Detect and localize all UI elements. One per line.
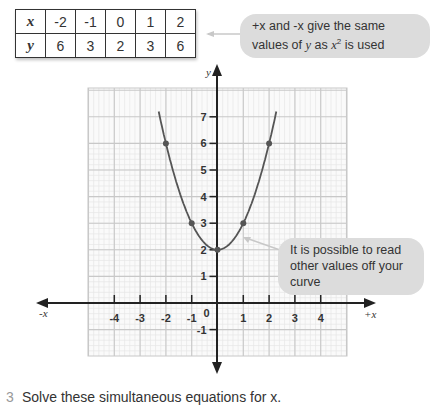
y-tick-label: 4 <box>200 191 207 203</box>
x-neg-label: -x <box>39 307 48 319</box>
question: 3Solve these simultaneous equations for … <box>6 389 281 405</box>
x-tick-label: 0 <box>203 307 209 319</box>
data-point <box>266 140 272 146</box>
y-tick-label: -1 <box>197 324 207 336</box>
callout-arrowhead-1 <box>206 31 214 37</box>
data-point <box>189 220 195 226</box>
data-point <box>240 220 246 226</box>
y-tick-label: 3 <box>200 217 206 229</box>
y-tick-label: 1 <box>200 270 206 282</box>
x-pos-label: +x <box>364 308 376 320</box>
y-axis-arrow-icon <box>212 64 222 76</box>
x-tick-label: 1 <box>240 312 246 324</box>
x-tick-label: 3 <box>292 312 298 324</box>
x-tick-label: -3 <box>135 312 145 324</box>
symmetry-callout: +x and -x give the same values of y as x… <box>240 14 430 58</box>
x-tick-label: -2 <box>161 312 171 324</box>
x-tick-label: 2 <box>266 312 272 324</box>
data-point <box>163 140 169 146</box>
read-values-callout: It is possible to read other values off … <box>278 238 424 295</box>
callout-text: is used <box>341 38 384 52</box>
question-number: 3 <box>6 389 18 405</box>
y-axis-down-arrow-icon <box>212 362 222 374</box>
data-point <box>215 247 221 253</box>
question-text: Solve these simultaneous equations for x… <box>22 389 281 405</box>
x-tick-label: -4 <box>109 312 120 324</box>
y-axis-label: y <box>205 66 211 78</box>
x-tick-label: 4 <box>318 312 325 324</box>
y-tick-label: 7 <box>200 111 206 123</box>
y-tick-label: 2 <box>200 244 206 256</box>
callout-text: as <box>311 38 331 52</box>
x-axis-pos-arrow-icon <box>364 298 376 308</box>
y-tick-label: 5 <box>200 164 206 176</box>
y-tick-label: 6 <box>200 137 206 149</box>
x-tick-label: -1 <box>187 312 197 324</box>
